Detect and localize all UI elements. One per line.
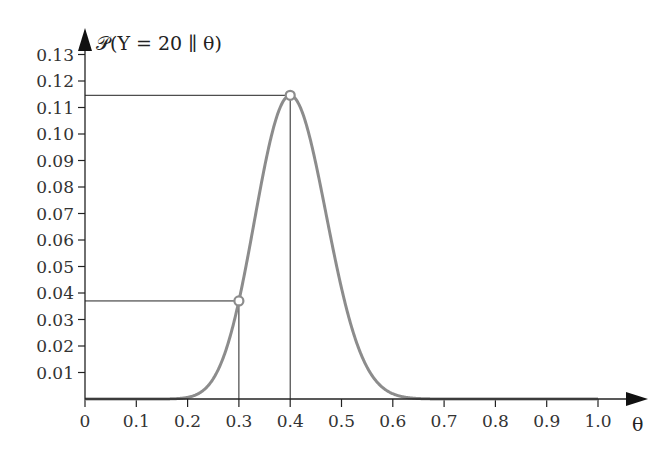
x-tick-label: 0.3 (225, 411, 252, 431)
likelihood-chart: 0.010.020.030.040.050.060.070.080.090.10… (0, 0, 672, 449)
x-tick-label: 1.0 (584, 411, 611, 431)
x-tick-label: 0.8 (482, 411, 509, 431)
data-point-marker (234, 296, 243, 305)
y-tick-label: 0.01 (36, 363, 74, 383)
x-axis-ticks: 00.10.20.30.40.50.60.70.80.91.0 (80, 399, 612, 431)
y-tick-label: 0.06 (36, 230, 74, 250)
y-tick-label: 0.02 (36, 336, 74, 356)
y-axis-label: 𝒫(Y = 20 ∥ θ) (96, 32, 222, 54)
y-tick-label: 0.12 (36, 71, 74, 91)
x-axis-label: θ (632, 413, 643, 435)
y-axis-arrow-icon (78, 28, 92, 51)
data-point-marker (286, 91, 295, 100)
x-tick-label: 0 (80, 411, 91, 431)
y-axis-ticks: 0.010.020.030.040.050.060.070.080.090.10… (36, 45, 85, 383)
x-axis-arrow-icon (626, 392, 648, 406)
y-tick-label: 0.05 (36, 257, 74, 277)
y-tick-label: 0.13 (36, 45, 74, 65)
x-tick-label: 0.4 (277, 411, 304, 431)
x-tick-label: 0.5 (328, 411, 355, 431)
y-tick-label: 0.04 (36, 283, 74, 303)
y-tick-label: 0.03 (36, 310, 74, 330)
x-tick-label: 0.6 (379, 411, 406, 431)
y-tick-label: 0.11 (36, 98, 74, 118)
marker-guide-lines (85, 95, 290, 399)
x-tick-label: 0.2 (174, 411, 201, 431)
x-tick-label: 0.1 (123, 411, 150, 431)
x-tick-label: 0.9 (533, 411, 560, 431)
y-tick-label: 0.07 (36, 204, 74, 224)
x-tick-label: 0.7 (431, 411, 458, 431)
y-tick-label: 0.10 (36, 124, 74, 144)
likelihood-curve (85, 95, 598, 399)
y-tick-label: 0.08 (36, 177, 74, 197)
y-tick-label: 0.09 (36, 151, 74, 171)
